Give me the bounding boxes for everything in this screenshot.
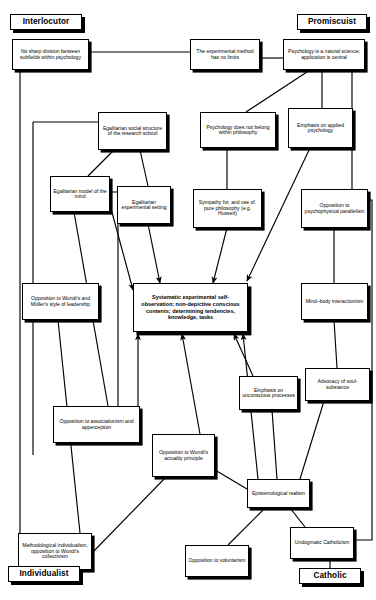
node-label: Emphasis on applied psychology <box>291 123 350 134</box>
node-label: Egalitarian experimental setting <box>120 200 168 211</box>
edge-sympathy-to-central <box>213 228 227 283</box>
node-label: Psychology is a natural science; applica… <box>286 49 362 60</box>
node-natsci[interactable]: Psychology is a natural science; applica… <box>283 39 365 70</box>
node-label: Emphasis on unconscious processes <box>242 388 295 399</box>
node-label: Opposition to psychophysical parallelism <box>304 203 365 214</box>
node-label: Mind–body interactionism <box>304 299 365 304</box>
node-label: Epistemological realism <box>250 491 307 496</box>
node-label: Opposition to Wundt's and Müller's style… <box>25 296 96 307</box>
node-label: Opposition to voluntarism <box>188 558 246 563</box>
edge-egalsocial-to-egalexp <box>140 150 148 186</box>
edge-unconscious-to-central <box>234 334 253 376</box>
role-box-individualist[interactable]: Individualist <box>8 566 80 582</box>
node-label: Opposition to Wundt's actuality principl… <box>155 450 212 461</box>
node-mindbody[interactable]: Mind–body interactionism <box>301 283 368 320</box>
node-label: Advocacy of soul-substance <box>308 379 367 390</box>
edge-epistem-to-voluntarism <box>228 508 265 545</box>
node-expmethod[interactable]: The experimental method has no limits <box>190 39 260 70</box>
node-egalsocial[interactable]: Egalitarian social structure of the rese… <box>98 112 167 150</box>
node-label: Egalitarian model of the mind <box>53 189 107 200</box>
node-label: Undogmatic Catholicism <box>293 540 351 545</box>
node-label: Sympathy for, and use of, pure philosoph… <box>196 200 259 216</box>
node-method[interactable]: Methodological individualism, opposition… <box>18 533 92 570</box>
role-box-catholic[interactable]: Catholic <box>299 568 361 584</box>
node-soul[interactable]: Advocacy of soul-substance <box>305 368 370 401</box>
node-label: Egalitarian social structure of the rese… <box>101 126 164 137</box>
node-applied[interactable]: Emphasis on applied psychology <box>288 108 353 148</box>
edge-actuality-to-central <box>182 334 200 434</box>
node-psychnotphil[interactable]: Psychology does not belong within philos… <box>200 112 276 148</box>
edge-epistem-to-undogmatic <box>290 508 305 527</box>
node-central[interactable]: Systematic experimental self-observation… <box>133 283 248 332</box>
node-unconscious[interactable]: Emphasis on unconscious processes <box>239 376 298 410</box>
diagram-canvas: No sharp division between subfields with… <box>0 0 376 600</box>
node-leadership[interactable]: Opposition to Wundt's and Müller's style… <box>22 283 99 320</box>
node-actuality[interactable]: Opposition to Wundt's actuality principl… <box>152 434 215 477</box>
node-epistem[interactable]: Epistemological realism <box>247 479 310 508</box>
role-box-label: Individualist <box>11 570 77 579</box>
node-label: The experimental method has no limits <box>193 49 257 60</box>
role-box-interlocutor[interactable]: Interlocutor <box>10 14 82 30</box>
node-undogmatic[interactable]: Undogmatic Catholicism <box>290 527 354 559</box>
role-box-label: Promiscuist <box>300 18 364 27</box>
node-label: Methodological individualism, opposition… <box>21 543 89 559</box>
role-box-label: Interlocutor <box>13 18 79 27</box>
node-label: No sharp division between subfields with… <box>15 49 86 60</box>
edge-soul-to-epistem <box>300 401 324 479</box>
edge-natsci-down-left-to-psychnotphil <box>246 70 310 112</box>
node-egalmodel[interactable]: Egalitarian model of the mind <box>50 176 110 212</box>
node-label: Systematic experimental self-observation… <box>136 294 245 321</box>
node-nosharp[interactable]: No sharp division between subfields with… <box>12 39 89 70</box>
edge-epistem-to-actuality <box>215 470 247 489</box>
edge-egalsocial-to-egalmodel <box>88 150 114 176</box>
role-box-promiscuist[interactable]: Promiscuist <box>297 14 367 30</box>
node-label: Opposition to associationism and apperce… <box>56 419 137 430</box>
node-assoc[interactable]: Opposition to associationism and apperce… <box>53 406 140 443</box>
node-psychophys[interactable]: Opposition to psychophysical parallelism <box>301 189 368 228</box>
node-label: Psychology does not belong within philos… <box>203 125 273 136</box>
node-egalexp[interactable]: Egalitarian experimental setting <box>117 186 171 224</box>
edge-actuality-to-method <box>92 477 166 553</box>
edge-mindbody-to-soul <box>334 320 337 368</box>
role-box-label: Catholic <box>302 572 358 581</box>
node-voluntarism[interactable]: Opposition to voluntarism <box>185 545 249 577</box>
edge-egalexp-to-central <box>148 224 160 283</box>
node-sympathy[interactable]: Sympathy for, and use of, pure philosoph… <box>193 189 262 228</box>
edge-unconscious-to-epistem <box>272 410 277 479</box>
edge-egalmodel-right-down <box>110 192 118 420</box>
